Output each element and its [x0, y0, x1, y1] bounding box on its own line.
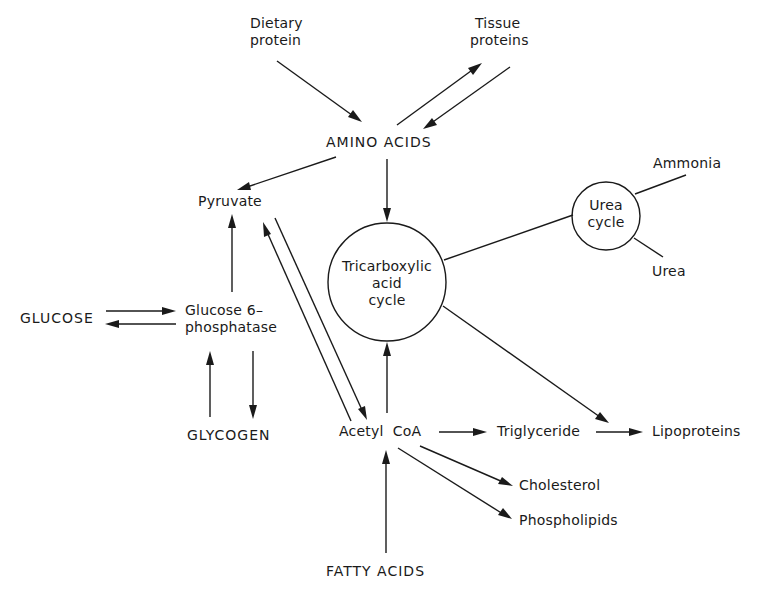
- node-urea-cycle: Urea cycle: [572, 197, 640, 231]
- node-g6p-line2: phosphatase: [185, 319, 277, 336]
- node-glucose: GLUCOSE: [20, 310, 94, 327]
- node-acetyl-coa: Acetyl CoA: [339, 423, 421, 440]
- arrowhead-icon: [105, 320, 119, 328]
- metabolic-pathway-diagram: Dietary protein Tissue proteins AMINO AC…: [0, 0, 763, 595]
- node-urea-cycle-line1: Urea: [572, 197, 640, 214]
- arrowhead-icon: [473, 428, 487, 436]
- edge-acetyl-to-cholesterol: [420, 446, 503, 482]
- arrowhead-icon: [498, 508, 512, 519]
- node-lipoproteins: Lipoproteins: [652, 423, 741, 440]
- arrowhead-icon: [348, 110, 362, 122]
- node-amino-acids: AMINO ACIDS: [326, 134, 432, 151]
- edge-pyruvate-to-acetyl: [275, 218, 362, 410]
- arrowhead-icon: [162, 307, 176, 315]
- edge-amino-to-pyruvate: [244, 157, 336, 188]
- arrowhead-icon: [228, 214, 236, 228]
- node-dietary-protein-line1: Dietary: [250, 15, 303, 32]
- edge-tca-to-urea-cycle: [444, 215, 573, 260]
- edge-urea-cycle-to-urea: [634, 238, 663, 257]
- node-pyruvate: Pyruvate: [198, 193, 262, 210]
- arrowhead-icon: [629, 428, 643, 436]
- arrowhead-icon: [249, 405, 257, 419]
- node-urea-cycle-line2: cycle: [572, 214, 640, 231]
- arrowhead-icon: [383, 208, 391, 222]
- edge-urea-cycle-to-ammonia: [635, 175, 686, 194]
- node-cholesterol: Cholesterol: [519, 477, 600, 494]
- edge-tissue-to-amino: [430, 67, 510, 124]
- arrowhead-icon: [383, 342, 391, 356]
- node-g6p-line1: Glucose 6–: [185, 302, 277, 319]
- node-tissue-proteins-line1: Tissue: [470, 15, 529, 32]
- edge-dietary-to-amino: [277, 61, 356, 118]
- arrowhead-icon: [382, 450, 390, 464]
- node-tissue-proteins-line2: proteins: [470, 32, 529, 49]
- node-tca-cycle: Tricarboxylic acid cycle: [328, 258, 446, 309]
- arrowhead-icon: [263, 222, 271, 237]
- arrowhead-icon: [358, 406, 367, 420]
- arrowhead-icon: [595, 412, 609, 423]
- node-tca-line3: cycle: [328, 292, 446, 309]
- node-dietary-protein: Dietary protein: [250, 15, 303, 49]
- node-urea: Urea: [652, 263, 686, 280]
- arrowhead-icon: [498, 477, 513, 486]
- node-triglyceride: Triglyceride: [497, 423, 580, 440]
- edge-amino-to-tissue: [397, 68, 475, 125]
- node-dietary-protein-line2: protein: [250, 32, 303, 49]
- node-glucose-6-phosphatase: Glucose 6– phosphatase: [185, 302, 277, 336]
- arrowhead-icon: [468, 63, 482, 75]
- node-tca-line1: Tricarboxylic: [328, 258, 446, 275]
- node-fatty-acids: FATTY ACIDS: [326, 563, 425, 580]
- node-tca-line2: acid: [328, 275, 446, 292]
- node-tissue-proteins: Tissue proteins: [470, 15, 529, 49]
- node-ammonia: Ammonia: [653, 155, 721, 172]
- edge-tca-to-lipoproteins: [443, 306, 600, 417]
- node-phospholipids: Phospholipids: [519, 512, 618, 529]
- arrowhead-icon: [237, 182, 251, 190]
- arrowhead-icon: [206, 351, 214, 365]
- edge-acetyl-to-phospholipids: [398, 448, 503, 514]
- node-glycogen: GLYCOGEN: [187, 427, 271, 444]
